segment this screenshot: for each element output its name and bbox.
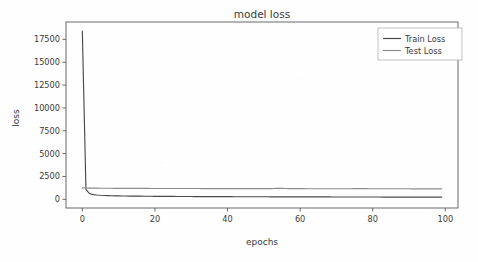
x-tick-label: 0	[80, 214, 85, 224]
y-tick-label: 12500	[34, 80, 60, 90]
x-tick-label: 80	[367, 214, 377, 224]
y-tick-label: 2500	[39, 171, 60, 181]
x-tick-label: 20	[150, 214, 160, 224]
y-tick-label: 10000	[34, 103, 60, 113]
y-tick-label: 15000	[34, 57, 60, 67]
matplotlib-figure: model loss loss epochs 02500500075001000…	[0, 0, 478, 262]
x-axis-ticks: 020406080100	[80, 208, 453, 224]
chart-title: model loss	[234, 8, 290, 20]
x-tick-label: 100	[437, 214, 453, 224]
legend-label-train-loss: Train Loss	[404, 34, 445, 44]
x-tick-label: 60	[295, 214, 305, 224]
y-axis-label: loss	[11, 109, 21, 127]
y-tick-label: 5000	[39, 149, 60, 159]
y-axis-ticks: 025005000750010000125001500017500	[34, 34, 66, 204]
model-loss-line-chart: model loss loss epochs 02500500075001000…	[0, 0, 478, 262]
legend-label-test-loss: Test Loss	[404, 46, 442, 56]
series-line-test-loss	[82, 188, 441, 189]
x-tick-label: 40	[222, 214, 232, 224]
y-tick-label: 7500	[39, 126, 60, 136]
chart-legend[interactable]: Train Loss Test Loss	[378, 28, 462, 60]
y-tick-label: 0	[55, 194, 60, 204]
x-axis-label: epochs	[246, 237, 278, 247]
y-tick-label: 17500	[34, 34, 60, 44]
